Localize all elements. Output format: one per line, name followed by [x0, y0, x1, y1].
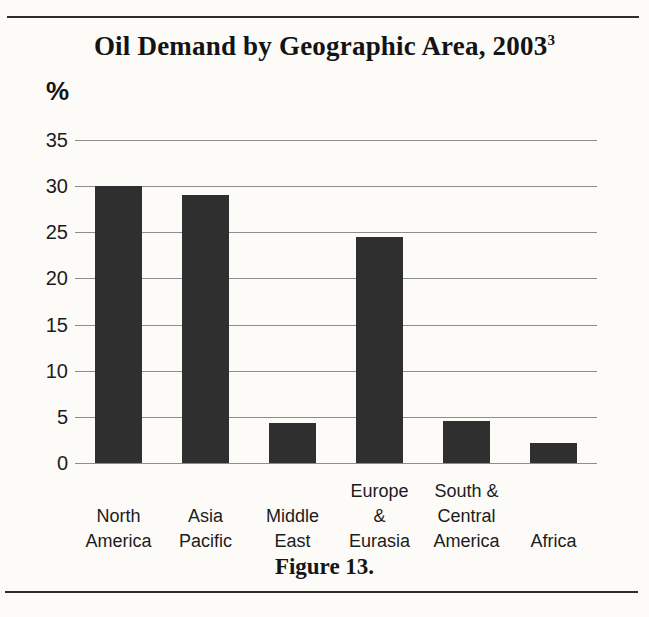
bar-africa — [530, 443, 577, 463]
gridline — [75, 232, 597, 233]
figure-caption: Figure 13. — [0, 554, 649, 580]
page: Oil Demand by Geographic Area, 20033 % 3… — [0, 0, 649, 617]
x-axis-label-line: Africa — [530, 529, 576, 554]
bar-middle-east — [269, 423, 316, 463]
gridline — [75, 278, 597, 279]
footnote-marker: 3 — [547, 32, 555, 48]
bar-south-central-america — [443, 421, 490, 463]
gridline — [75, 325, 597, 326]
y-tick-label: 25 — [14, 221, 68, 243]
x-axis-label-line: North — [85, 504, 151, 529]
gridline — [75, 140, 597, 141]
y-tick-label: 15 — [14, 314, 68, 336]
x-axis-label-line: Asia — [179, 504, 232, 529]
x-axis-label-line: America — [433, 529, 499, 554]
chart-title-text: Oil Demand by Geographic Area, 2003 — [94, 31, 548, 61]
x-axis-label-europe-eurasia: Europe&Eurasia — [349, 479, 410, 554]
x-axis-labels: NorthAmericaAsiaPacificMiddleEastEurope&… — [75, 463, 597, 558]
x-axis-label-line: & — [349, 504, 410, 529]
x-axis-label-line: Pacific — [179, 529, 232, 554]
x-axis-label-south-central-america: South &CentralAmerica — [433, 479, 499, 554]
x-axis-label-line: Eurasia — [349, 529, 410, 554]
x-axis-label-middle-east: MiddleEast — [266, 504, 319, 554]
chart-title: Oil Demand by Geographic Area, 20033 — [0, 31, 649, 62]
y-tick-label: 35 — [14, 129, 68, 151]
x-axis-label-north-america: NorthAmerica — [85, 504, 151, 554]
x-axis-label-line: America — [85, 529, 151, 554]
y-tick-label: 5 — [14, 406, 68, 428]
gridline — [75, 417, 597, 418]
bar-europe-eurasia — [356, 237, 403, 463]
y-tick-label: 0 — [14, 452, 68, 474]
top-rule — [7, 16, 639, 18]
y-tick-label: 20 — [14, 267, 68, 289]
x-axis-label-line: Middle — [266, 504, 319, 529]
gridline — [75, 371, 597, 372]
x-axis-label-line: South & — [433, 479, 499, 504]
gridline — [75, 186, 597, 187]
bar-north-america — [95, 186, 142, 463]
y-tick-label: 30 — [14, 175, 68, 197]
x-axis-label-asia-pacific: AsiaPacific — [179, 504, 232, 554]
plot-area — [75, 140, 597, 463]
x-axis-label-line: Central — [433, 504, 499, 529]
bottom-rule — [5, 591, 638, 593]
y-axis-unit-label: % — [46, 76, 69, 107]
x-axis-label-africa: Africa — [530, 529, 576, 554]
y-tick-label: 10 — [14, 360, 68, 382]
bar-asia-pacific — [182, 195, 229, 463]
x-axis-label-line: East — [266, 529, 319, 554]
x-axis-label-line: Europe — [349, 479, 410, 504]
